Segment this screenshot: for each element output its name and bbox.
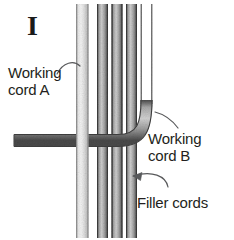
- label-working-cord-b: Working cord B: [148, 130, 201, 164]
- step-numeral: I: [27, 12, 38, 40]
- label-filler-cords: Filler cords: [137, 194, 208, 211]
- working-cord-a: [76, 4, 89, 238]
- label-working-cord-a-line2: cord A: [8, 81, 61, 98]
- filler-cords-group: [97, 4, 137, 238]
- illustration-figure: I Working cord A Working cord B Filler c…: [0, 0, 234, 240]
- leader-line-cord-b: [155, 112, 178, 128]
- filler-cord-2: [112, 4, 123, 238]
- label-working-cord-b-line2: cord B: [148, 147, 201, 164]
- label-working-cord-a: Working cord A: [8, 64, 61, 98]
- filler-cord-3: [126, 4, 137, 238]
- label-working-cord-b-line1: Working: [148, 130, 201, 147]
- label-working-cord-a-line1: Working: [8, 64, 61, 81]
- working-cord-b-upper: [141, 4, 152, 104]
- filler-cord-1: [97, 4, 108, 238]
